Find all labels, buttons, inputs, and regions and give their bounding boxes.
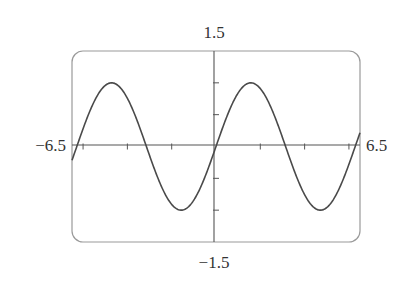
sine-curve [72,83,360,210]
x-max-label: 6.5 [366,136,387,155]
sine-graph: 1.5 −1.5 −6.5 6.5 [0,0,418,286]
x-min-label: −6.5 [35,136,66,155]
y-max-label: 1.5 [203,23,224,42]
y-min-label: −1.5 [199,253,230,272]
